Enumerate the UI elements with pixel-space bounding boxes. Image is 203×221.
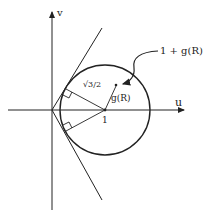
vector-label: g(R): [111, 93, 131, 103]
radius-label: √3/2: [83, 80, 101, 89]
center-tick-label: 1: [102, 115, 108, 125]
g-point: [115, 84, 118, 87]
u-axis-label: u: [175, 96, 182, 109]
v-axis-label: v: [56, 7, 63, 18]
pointer-arrow: [123, 51, 158, 84]
point-label: 1 + g(R): [160, 45, 203, 56]
diagram-canvas: v u 1 √3/2 g(R) 1 + g(R): [0, 0, 203, 221]
lower-right-angle-marker: [63, 122, 72, 128]
lower-tangent-line: [52, 110, 102, 200]
upper-right-angle-marker: [63, 92, 72, 98]
upper-tangent-line: [52, 28, 102, 110]
